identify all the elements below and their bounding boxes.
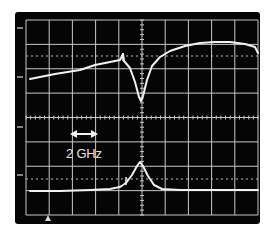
scale-label: 2 GHz [66,146,102,161]
oscilloscope-display [0,0,271,233]
